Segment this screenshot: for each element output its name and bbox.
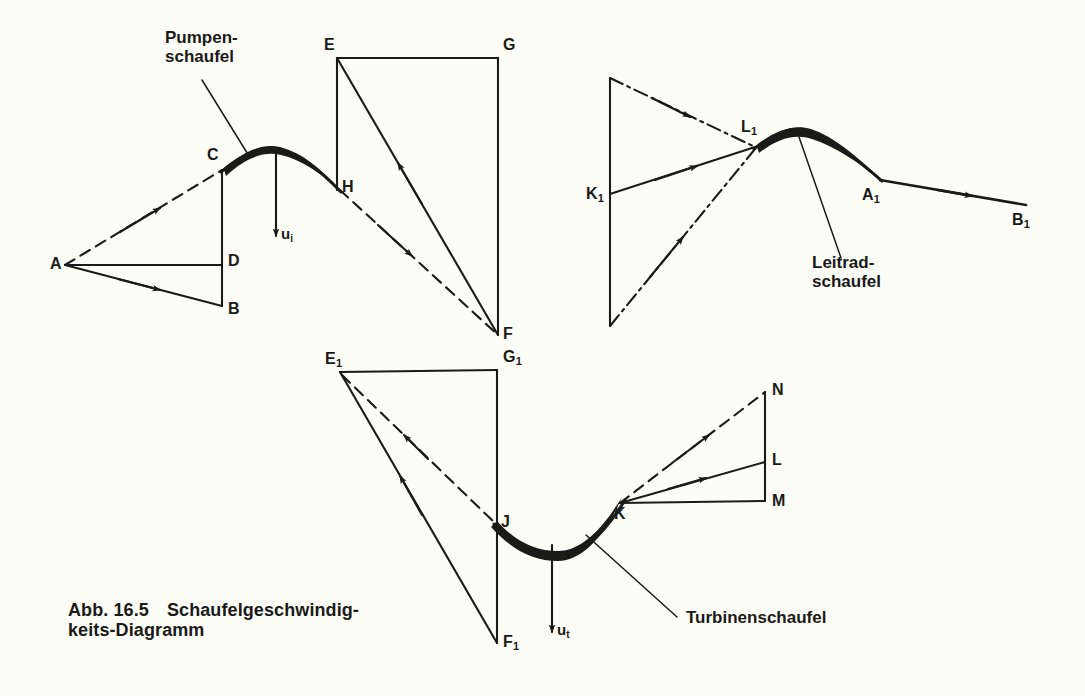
arrowhead-A-B xyxy=(118,279,160,290)
stator-blade-annotation: Leitrad- schaufel xyxy=(812,253,881,291)
point-label-C: C xyxy=(207,146,219,164)
point-label-K1-subscript: 1 xyxy=(598,192,604,204)
point-label-A1-subscript: 1 xyxy=(874,193,880,205)
arrowhead-K-N xyxy=(672,435,709,463)
pump-inlet-triangle xyxy=(65,170,222,306)
velocity-label-u-t: ut xyxy=(557,622,570,639)
point-label-E: E xyxy=(324,36,335,54)
edge-K-M xyxy=(620,501,765,503)
arrowhead-E1-F1 xyxy=(400,476,422,515)
point-label-E1: E1 xyxy=(325,350,342,368)
point-label-B: B xyxy=(228,300,240,318)
point-label-B1-subscript: 1 xyxy=(1024,218,1030,230)
edge-E1-G1 xyxy=(340,370,497,372)
point-label-B1: B1 xyxy=(1012,211,1030,229)
point-label-G1: G1 xyxy=(503,348,522,366)
arrowhead-top-L1 xyxy=(652,98,690,117)
point-label-A: A xyxy=(50,255,62,273)
turbine-blade-body xyxy=(491,497,622,561)
figure-root: Pumpen- schaufel Leitrad- schaufel Turbi… xyxy=(0,0,1085,696)
point-label-E1-base: E xyxy=(325,350,336,367)
stator-blade xyxy=(754,127,1026,205)
point-label-A1: A1 xyxy=(862,186,880,204)
diagram-canvas xyxy=(0,0,1085,696)
point-label-J: J xyxy=(501,513,510,531)
point-label-K: K xyxy=(614,505,626,523)
pump-blade-leader-line xyxy=(202,80,249,156)
point-label-G1-subscript: 1 xyxy=(516,355,522,367)
caption-number: Abb. 16.5 xyxy=(68,600,149,620)
edge-H-F xyxy=(340,190,498,335)
point-label-L1: L1 xyxy=(741,118,757,136)
caption-title-line2: keits-Diagramm xyxy=(68,620,204,640)
pump-blade-annotation-line2: schaufel xyxy=(165,47,234,66)
pump-outlet-triangle xyxy=(337,58,498,335)
arrowhead-bottom-L1 xyxy=(650,237,683,277)
stator-blade-annotation-line1: Leitrad- xyxy=(812,253,874,272)
u-t-subscript: t xyxy=(566,629,569,640)
velocity-label-u-i: ui xyxy=(281,226,293,243)
arrowhead-E1-J xyxy=(404,435,428,459)
point-label-L1-base: L xyxy=(741,118,751,135)
figure-caption: Abb. 16.5Schaufelgeschwindig- keits-Diag… xyxy=(68,600,359,640)
point-label-H: H xyxy=(342,178,354,196)
point-label-N: N xyxy=(772,381,784,399)
turbine-inlet-triangle xyxy=(340,370,497,643)
point-label-L1-subscript: 1 xyxy=(751,125,757,137)
u-t-base: u xyxy=(557,621,566,638)
pump-blade xyxy=(221,146,341,192)
point-label-F: F xyxy=(503,325,513,343)
u-i-subscript: i xyxy=(290,233,293,244)
arrowhead-K-L xyxy=(668,478,706,489)
stator-blade-annotation-line2: schaufel xyxy=(812,272,881,291)
arrowhead-H-F xyxy=(378,225,412,256)
turbine-blade-annotation: Turbinenschaufel xyxy=(686,608,826,627)
point-label-E1-subscript: 1 xyxy=(336,357,342,369)
point-label-B1-base: B xyxy=(1012,211,1024,228)
point-label-L: L xyxy=(772,451,782,469)
turbine-blade-outline xyxy=(494,500,625,556)
pump-blade-body xyxy=(224,146,338,188)
point-label-F1-subscript: 1 xyxy=(513,640,519,652)
point-label-G1-base: G xyxy=(503,348,516,365)
turbine-outlet-triangle xyxy=(620,392,765,503)
point-label-A1-base: A xyxy=(862,186,874,203)
pump-blade-annotation: Pumpen- schaufel xyxy=(165,28,238,66)
stator-blade-body xyxy=(757,127,879,177)
caption-title-line1: Schaufelgeschwindig- xyxy=(167,600,359,620)
turbine-blade-leader-line xyxy=(586,535,677,617)
arrowhead-E-F xyxy=(398,163,422,204)
pump-blade-annotation-line1: Pumpen- xyxy=(165,28,238,47)
arrowhead-A1-B1 xyxy=(938,190,972,196)
point-label-K1-base: K xyxy=(586,185,598,202)
point-label-F1-base: F xyxy=(503,633,513,650)
point-label-M: M xyxy=(772,492,786,510)
point-label-D: D xyxy=(228,252,240,270)
stator-blade-leader-line xyxy=(799,137,841,258)
arrowhead-A-C xyxy=(120,208,160,232)
arrowhead-K1-L1 xyxy=(655,166,697,180)
stator-triangle xyxy=(610,78,755,326)
u-i-base: u xyxy=(281,225,290,242)
point-label-K1: K1 xyxy=(586,185,604,203)
point-label-G: G xyxy=(503,36,516,54)
point-label-F1: F1 xyxy=(503,633,519,651)
